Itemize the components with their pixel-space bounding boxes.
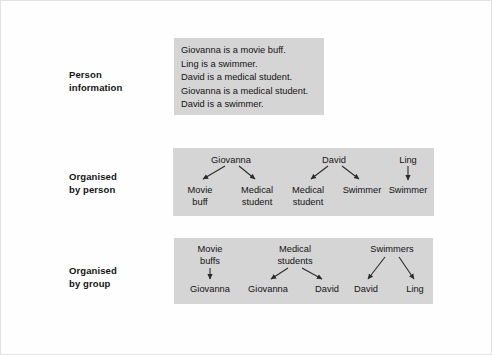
statement-line: Giovanna is a medical student. bbox=[181, 85, 324, 99]
tree-child-node: Giovanna bbox=[248, 283, 288, 295]
statement-line: Giovanna is a movie buff. bbox=[181, 44, 324, 58]
tree-root-node: Medical students bbox=[277, 243, 312, 267]
statement-line: Ling is a swimmer. bbox=[181, 58, 324, 72]
row-label-organised-by-group: Organised by group bbox=[69, 265, 117, 290]
organised-by-group-panel: Movie buffs Giovanna Medical students Gi… bbox=[174, 238, 433, 304]
statement-line: David is a swimmer. bbox=[181, 98, 324, 112]
tree-root-node: Ling bbox=[399, 154, 417, 166]
statement-line: David is a medical student. bbox=[181, 71, 324, 85]
tree-child-node: David bbox=[354, 283, 378, 295]
tree-child-node: Ling bbox=[406, 283, 424, 295]
tree-child-node: Movie buff bbox=[188, 184, 213, 208]
person-information-panel: Giovanna is a movie buff. Ling is a swim… bbox=[174, 38, 324, 115]
tree-child-node: Medical student bbox=[241, 184, 273, 208]
row-label-organised-by-person: Organised by person bbox=[69, 171, 117, 196]
diagram-figure: Person information Organised by person O… bbox=[0, 0, 492, 355]
tree-child-node: Medical student bbox=[292, 184, 324, 208]
tree-root-node: Giovanna bbox=[211, 154, 251, 166]
tree-root-node: Swimmers bbox=[370, 243, 413, 255]
tree-child-node: Swimmer bbox=[389, 184, 428, 196]
tree-child-node: Giovanna bbox=[190, 283, 230, 295]
tree-child-node: Swimmer bbox=[343, 184, 382, 196]
tree-root-node: David bbox=[322, 154, 346, 166]
tree-root-node: Movie buffs bbox=[198, 243, 223, 267]
tree-child-node: David bbox=[315, 283, 339, 295]
row-label-person-information: Person information bbox=[69, 69, 122, 94]
organised-by-person-panel: Giovanna Movie buff Medical student Davi… bbox=[173, 148, 434, 216]
